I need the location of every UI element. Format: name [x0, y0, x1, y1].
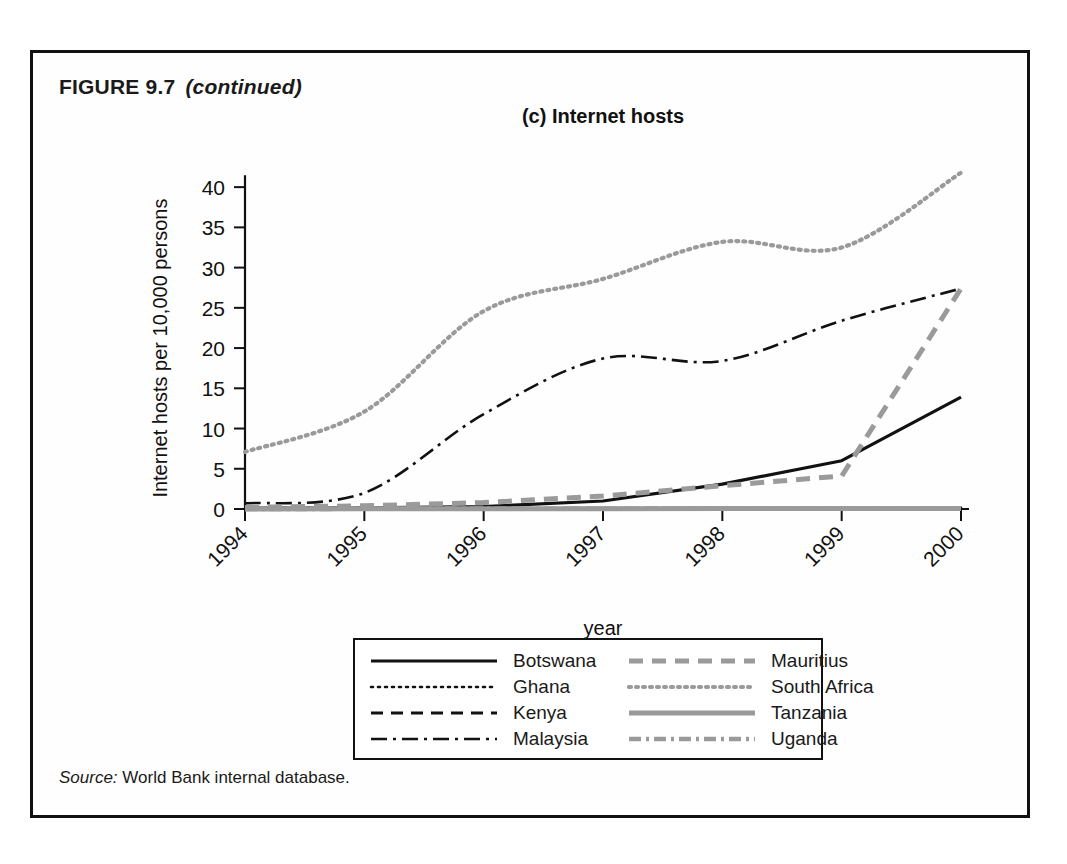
chart-plot-area: (c) Internet hosts0510152025303540Intern… [33, 101, 1033, 681]
legend-sample-south-africa [627, 680, 757, 694]
source-note: Source: World Bank internal database. [59, 768, 350, 788]
legend-label-botswana: Botswana [511, 650, 623, 672]
source-prefix: Source: [59, 768, 118, 787]
figure-label: FIGURE 9.7 [59, 75, 175, 98]
x-axis-tick-label: 1998 [680, 522, 729, 571]
x-axis-tick-label: 1996 [441, 522, 490, 571]
y-axis-title: Internet hosts per 10,000 persons [149, 199, 171, 498]
legend-sample-malaysia [369, 732, 499, 746]
legend-sample-tanzania [627, 706, 757, 720]
legend-sample-kenya [369, 706, 499, 720]
y-axis-tick-label: 5 [213, 458, 225, 481]
y-axis-tick-label: 20 [202, 337, 225, 360]
series-line-malaysia [245, 289, 961, 504]
y-axis-tick-label: 35 [202, 216, 225, 239]
series-line-south-africa [245, 173, 961, 452]
source-text: World Bank internal database. [122, 768, 349, 787]
legend-swatch [627, 706, 765, 720]
y-axis-tick-label: 40 [202, 176, 225, 199]
legend-sample-botswana [369, 654, 499, 668]
legend-label-ghana: Ghana [511, 676, 623, 698]
legend-swatch [369, 680, 507, 694]
legend-swatch [369, 732, 507, 746]
legend-label-tanzania: Tanzania [769, 702, 873, 724]
x-axis-tick-label: 2000 [919, 522, 968, 571]
legend-label-kenya: Kenya [511, 702, 623, 724]
y-axis-tick-label: 15 [202, 377, 225, 400]
series-line-uganda [245, 508, 961, 509]
chart-legend: BotswanaMauritiusGhanaSouth AfricaKenyaT… [353, 638, 823, 760]
y-axis-tick-label: 25 [202, 297, 225, 320]
y-axis-tick-label: 30 [202, 257, 225, 280]
x-axis-tick-label: 1997 [561, 522, 610, 571]
legend-swatch [627, 680, 765, 694]
x-axis-tick-label: 1999 [799, 522, 848, 571]
legend-sample-uganda [627, 732, 757, 746]
legend-sample-ghana [369, 680, 499, 694]
y-axis-tick-label: 10 [202, 418, 225, 441]
legend-label-mauritius: Mauritius [769, 650, 873, 672]
legend-label-uganda: Uganda [769, 728, 873, 750]
legend-swatch [369, 654, 507, 668]
y-axis-tick-label: 0 [213, 498, 225, 521]
x-axis-tick-label: 1994 [203, 521, 253, 571]
legend-label-malaysia: Malaysia [511, 728, 623, 750]
series-line-mauritius [245, 289, 961, 508]
legend-swatch [369, 706, 507, 720]
figure-container: FIGURE 9.7(continued) (c) Internet hosts… [30, 50, 1030, 818]
figure-title: FIGURE 9.7(continued) [59, 75, 302, 99]
line-chart: (c) Internet hosts0510152025303540Intern… [33, 101, 1033, 681]
x-axis-tick-label: 1995 [322, 522, 371, 571]
legend-swatch [627, 654, 765, 668]
figure-continued-label: (continued) [185, 75, 302, 98]
legend-swatch [627, 732, 765, 746]
legend-sample-mauritius [627, 654, 757, 668]
legend-label-south-africa: South Africa [769, 676, 873, 698]
x-axis-title: year [584, 617, 623, 639]
chart-title: (c) Internet hosts [522, 105, 684, 127]
